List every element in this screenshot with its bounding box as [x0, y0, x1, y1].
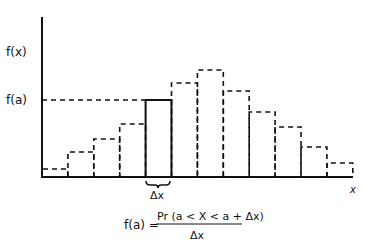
x-axis-label: x: [349, 184, 356, 195]
histogram-bar: [275, 127, 301, 177]
histogram-bar: [120, 124, 146, 177]
delta-x-brace-icon: [146, 181, 170, 188]
fa-label: f(a): [6, 93, 27, 107]
histogram-bar: [42, 169, 68, 177]
histogram-bar: [197, 70, 223, 177]
histogram-bar: [249, 112, 275, 177]
histogram-bar: [172, 83, 198, 177]
formula-denominator: Δx: [190, 229, 205, 242]
histogram-bars: [42, 70, 353, 177]
highlighted-bar: [146, 100, 172, 177]
histogram-bar: [327, 163, 353, 177]
formula-numerator: Pr (a < X < a + Δx): [157, 210, 264, 223]
y-axis-label: f(x): [6, 45, 27, 59]
histogram-bar: [301, 147, 327, 177]
delta-x-label: Δx: [150, 189, 165, 202]
density-histogram-diagram: f(x) f(a) x Δx f(a) = Pr (a < X < a + Δx…: [0, 0, 374, 249]
histogram-bar: [68, 152, 94, 177]
formula-lhs: f(a) =: [124, 218, 159, 232]
histogram-bar: [94, 139, 120, 177]
histogram-bar: [223, 91, 249, 177]
